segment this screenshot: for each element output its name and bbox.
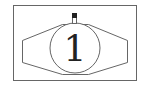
- marker-number: 1: [64, 28, 87, 69]
- diagram-canvas: 1: [0, 0, 142, 87]
- crown-knob-icon: [72, 13, 77, 18]
- crown-stem: [73, 18, 77, 24]
